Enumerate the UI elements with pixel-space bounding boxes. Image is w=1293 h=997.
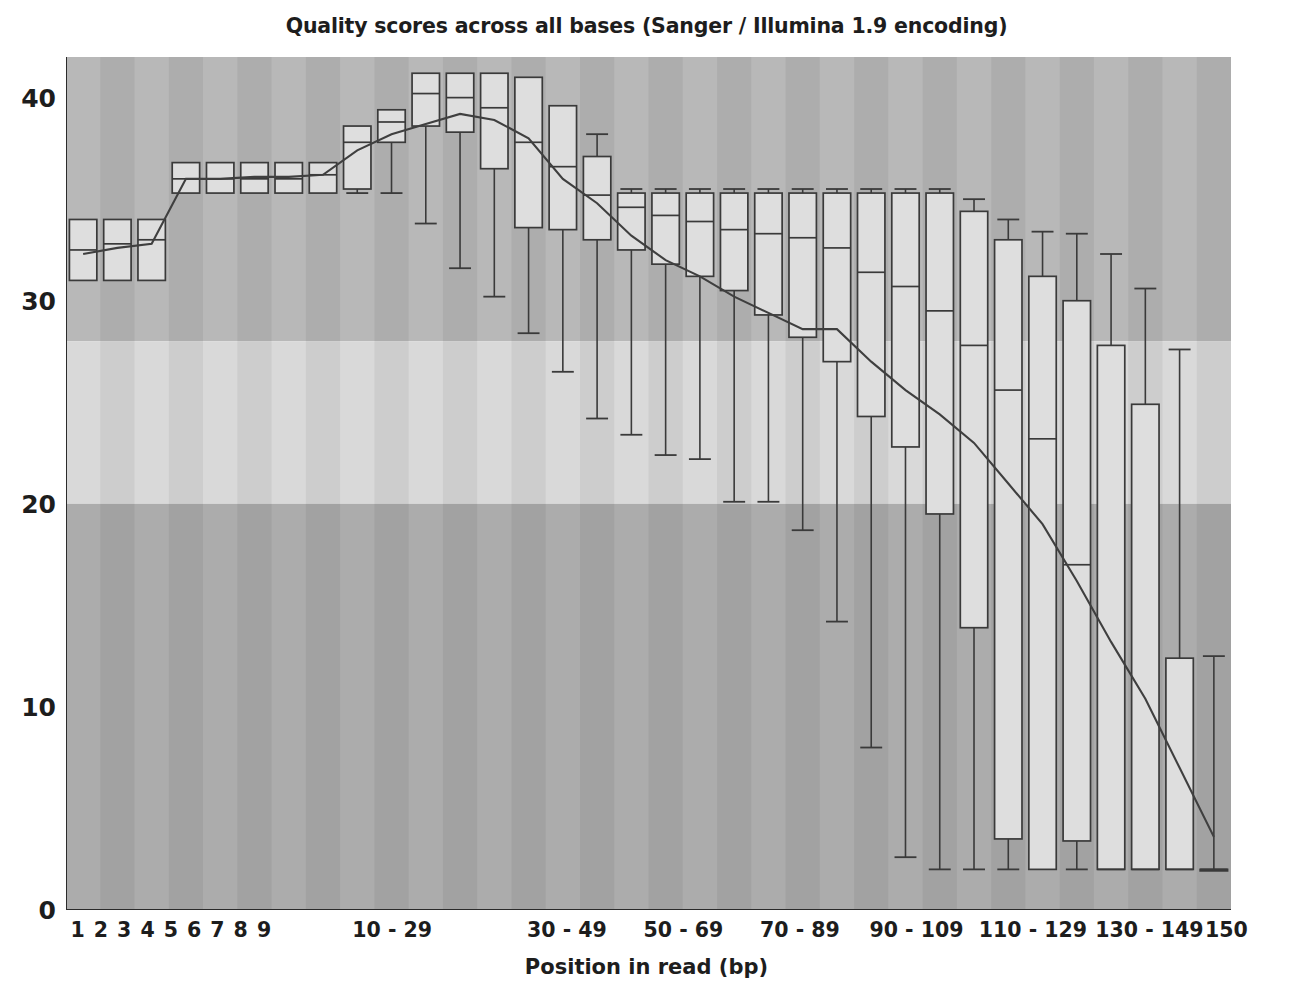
- x-tick-label: 70 - 89: [760, 918, 840, 942]
- iqr-box: [720, 193, 747, 290]
- y-tick-label: 0: [0, 896, 56, 925]
- iqr-box: [412, 73, 439, 126]
- iqr-box: [858, 193, 885, 416]
- stripe: [649, 57, 683, 910]
- iqr-box: [755, 193, 782, 315]
- iqr-box: [1132, 404, 1159, 869]
- box-glyph: [344, 126, 371, 193]
- x-tick-label: 30 - 49: [527, 918, 607, 942]
- box-glyph: [138, 219, 165, 280]
- x-tick-label: 50 - 69: [644, 918, 724, 942]
- iqr-box: [1166, 658, 1193, 869]
- iqr-box: [1063, 301, 1090, 841]
- iqr-box: [378, 110, 405, 142]
- x-tick-label: 2: [94, 918, 108, 942]
- page-title: Quality scores across all bases (Sanger …: [0, 14, 1293, 38]
- iqr-box: [995, 240, 1022, 839]
- x-tick-label: 150: [1205, 918, 1248, 942]
- x-axis-title: Position in read (bp): [0, 955, 1293, 979]
- iqr-box: [138, 219, 165, 280]
- y-tick-label: 10: [0, 692, 56, 721]
- iqr-box: [446, 73, 473, 132]
- box-glyph: [995, 219, 1022, 869]
- iqr-box: [892, 193, 919, 447]
- box-glyph: [1029, 232, 1056, 870]
- x-tick-label: 90 - 109: [869, 918, 963, 942]
- x-tick-label: 5: [164, 918, 178, 942]
- iqr-box: [1097, 345, 1124, 869]
- column-stripes: [100, 57, 1231, 910]
- x-tick-label: 1: [71, 918, 85, 942]
- y-tick-label: 20: [0, 489, 56, 518]
- iqr-box: [789, 193, 816, 337]
- x-tick-label: 8: [234, 918, 248, 942]
- iqr-box: [1029, 276, 1056, 869]
- box-glyph: [69, 219, 96, 280]
- y-tick-label: 40: [0, 83, 56, 112]
- x-tick-label: 6: [187, 918, 201, 942]
- x-tick-label: 110 - 129: [979, 918, 1087, 942]
- stripe: [100, 57, 134, 910]
- iqr-box: [926, 193, 953, 514]
- x-tick-label: 9: [257, 918, 271, 942]
- box-glyph: [1097, 254, 1124, 869]
- x-tick-label: 130 - 149: [1095, 918, 1203, 942]
- box-glyph: [1063, 234, 1090, 870]
- plot-area: [66, 57, 1231, 910]
- chart-page: Quality scores across all bases (Sanger …: [0, 0, 1293, 997]
- iqr-box: [823, 193, 850, 362]
- boxplot-svg: [66, 57, 1231, 910]
- iqr-box: [960, 211, 987, 627]
- iqr-box: [583, 157, 610, 240]
- x-tick-label: 7: [210, 918, 224, 942]
- y-tick-label: 30: [0, 286, 56, 315]
- iqr-box: [686, 193, 713, 276]
- x-tick-label: 4: [140, 918, 154, 942]
- x-tick-label: 3: [117, 918, 131, 942]
- iqr-box: [515, 77, 542, 227]
- x-tick-label: 10 - 29: [352, 918, 432, 942]
